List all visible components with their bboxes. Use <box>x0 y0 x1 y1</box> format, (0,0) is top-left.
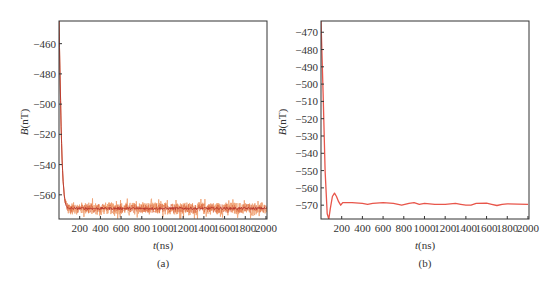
plot-area <box>321 21 528 219</box>
y-tick-label: −560 <box>295 182 318 194</box>
y-tick-label: −510 <box>295 95 318 107</box>
x-tick-label: 1000 <box>151 222 174 234</box>
y-tick-label: −520 <box>295 113 318 125</box>
x-axis-label: t(ns) <box>415 239 436 252</box>
series-line <box>59 21 267 210</box>
y-tick-label: −500 <box>33 98 56 110</box>
x-tick-label: 600 <box>375 222 392 234</box>
panel-caption: (a) <box>157 257 170 270</box>
plot-frame <box>321 21 529 219</box>
x-tick-label: 1600 <box>214 222 237 234</box>
y-tick-label: −530 <box>295 130 318 142</box>
x-tick-label: 200 <box>333 222 350 234</box>
figure: 200400600800100012001400160018002000−460… <box>0 0 553 286</box>
chart-a: 200400600800100012001400160018002000−460… <box>18 20 277 270</box>
y-tick-label: −460 <box>33 38 56 50</box>
x-tick-label: 800 <box>396 222 413 234</box>
x-tick-label: 600 <box>113 222 130 234</box>
x-tick-label: 400 <box>92 222 109 234</box>
x-tick-label: 1800 <box>234 222 257 234</box>
plot-frame <box>59 21 267 219</box>
x-tick-label: 1400 <box>193 222 216 234</box>
y-tick-label: −520 <box>33 128 56 140</box>
x-tick-label: 1200 <box>172 222 195 234</box>
series-line <box>321 21 528 219</box>
plot-area <box>59 20 267 218</box>
y-tick-label: −490 <box>295 61 318 73</box>
x-tick-label: 1000 <box>413 222 436 234</box>
x-tick-label: 1600 <box>476 222 499 234</box>
series-noisy-line <box>59 21 267 219</box>
x-tick-label: 2000 <box>517 222 540 234</box>
y-tick-label: −560 <box>33 189 56 201</box>
x-axis-label: t(ns) <box>153 239 174 252</box>
x-tick-label: 2000 <box>255 222 278 234</box>
chart-b: 200400600800100012001400160018002000−470… <box>276 21 539 270</box>
y-axis-label: B(nT) <box>18 109 31 136</box>
y-tick-label: −540 <box>33 159 56 171</box>
y-axis-label: B(nT) <box>276 109 289 136</box>
x-tick-label: 1200 <box>434 222 457 234</box>
x-tick-label: 1800 <box>496 222 519 234</box>
y-tick-label: −550 <box>295 165 318 177</box>
series-noisy-line-2 <box>59 20 267 213</box>
x-tick-label: 1400 <box>455 222 478 234</box>
y-tick-label: −480 <box>295 44 318 56</box>
y-tick-label: −500 <box>295 78 318 90</box>
y-tick-label: −540 <box>295 147 318 159</box>
panel-caption: (b) <box>419 257 432 270</box>
x-tick-label: 800 <box>134 222 151 234</box>
x-tick-label: 200 <box>71 222 88 234</box>
y-tick-label: −470 <box>295 26 318 38</box>
y-tick-label: −480 <box>33 68 56 80</box>
x-tick-label: 400 <box>354 222 371 234</box>
y-tick-label: −570 <box>295 199 318 211</box>
